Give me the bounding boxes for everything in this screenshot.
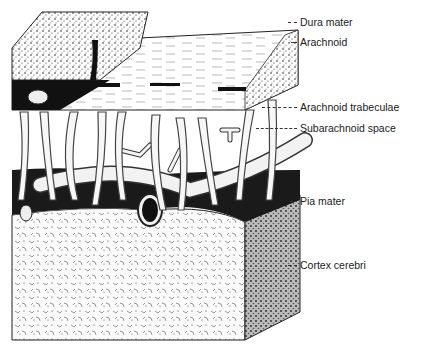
label-arachnoid: Arachnoid: [300, 36, 347, 48]
label-pia-mater: Pia mater: [300, 195, 345, 207]
leader-subarachnoid-space: [256, 128, 297, 129]
label-dura-mater: Dura mater: [300, 16, 353, 28]
meninges-illustration: [0, 0, 427, 360]
label-cortex-cerebri: Cortex cerebri: [300, 259, 366, 271]
leader-arachnoid-trabeculae: [262, 107, 297, 108]
label-arachnoid-trabeculae: Arachnoid trabeculae: [300, 101, 399, 113]
leader-cortex-cerebri: [288, 265, 297, 266]
leader-pia-mater: [290, 201, 297, 202]
label-subarachnoid-space: Subarachnoid space: [300, 122, 396, 134]
leader-dura-mater: [288, 22, 297, 23]
leader-arachnoid: [291, 42, 297, 43]
